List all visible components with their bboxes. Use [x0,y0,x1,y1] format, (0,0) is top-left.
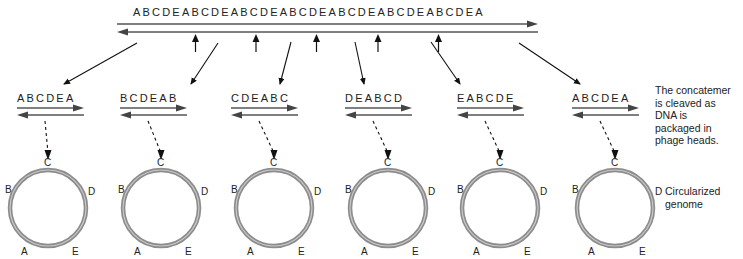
genome-locus-label: B [457,184,464,195]
genome-locus-label: A [588,246,595,257]
circular-genome-list: CBDAECBDAECBDAECBDAECBDAECBDAE [5,157,662,257]
circular-genome: CBDAE [457,157,547,257]
genome-locus-label: E [72,246,79,257]
circular-note-line: Circularized [665,185,720,198]
genome-locus-label: B [572,184,579,195]
concatemer-forward-strand [117,21,538,28]
genome-locus-label: D [428,186,435,197]
genome-locus-label: B [345,184,352,195]
dashed-arrow-icon [373,121,388,153]
fragment-sequence: DEABCD [345,92,404,104]
genome-locus-label: A [473,246,480,257]
cleavage-note-line: is cleaved as [655,97,731,110]
packaging-arrows [64,42,580,84]
concatemer-diagram: ABCDEABCDEABCDEABCDEABCDEABCDEABCDEA ABC… [0,0,743,259]
genome-locus-label: D [655,186,662,197]
circular-genome: CBDAE [345,157,435,257]
genome-locus-label: C [270,157,277,168]
fragment: CDEABC [231,92,298,160]
dashed-arrow-icon [485,121,500,153]
genome-locus-label: D [540,186,547,197]
genome-locus-label: D [201,186,208,197]
genome-locus-label: A [361,246,368,257]
cleavage-note-line: phage heads. [655,134,731,147]
genome-locus-label: D [88,186,95,197]
genome-locus-label: C [157,157,164,168]
genome-locus-label: E [524,246,531,257]
genome-locus-label: C [44,157,51,168]
genome-locus-label: E [185,246,192,257]
genome-locus-label: D [314,186,321,197]
genome-locus-label: B [118,184,125,195]
fragment: DEABCD [345,92,412,160]
genome-locus-label: A [134,246,141,257]
cleavage-note-line: The concatemer [655,84,731,97]
cleavage-site-arrows [192,34,442,52]
dashed-arrow-icon [45,121,48,153]
cleavage-note: The concatemer is cleaved as DNA is pack… [655,84,731,147]
dashed-arrow-icon [259,121,274,153]
genome-locus-label: B [5,184,12,195]
fragment-sequence: EABCDE [457,92,515,104]
cleavage-arrow-icon [375,34,382,52]
circular-note-line: genome [665,198,720,211]
fragment: ABCDEA [17,92,84,160]
fragment: BCDEAB [120,92,187,160]
concatemer: ABCDEABCDEABCDEABCDEABCDEABCDEABCDEA [117,6,538,36]
fragment-sequence: CDEABC [231,92,290,104]
cleavage-arrow-icon [192,34,199,52]
arrow-to-fragment-6 [519,43,580,84]
circular-genome: CBDAE [231,157,321,257]
arrow-to-fragment-4 [355,42,364,84]
fragment-sequence: ABCDEA [572,92,630,104]
cleavage-note-line: DNA is [655,109,731,122]
fragment-sequence: ABCDEA [17,92,75,104]
cleavage-arrow-icon [253,34,260,52]
cleavage-note-line: packaged in [655,122,731,135]
arrow-to-fragment-3 [280,42,291,84]
genome-locus-label: C [496,157,503,168]
arrow-to-fragment-1 [64,43,137,84]
arrow-to-fragment-5 [431,42,460,84]
genome-locus-label: A [21,246,28,257]
genome-locus-label: B [231,184,238,195]
circular-genome: CBDAE [5,157,95,257]
dashed-arrow-icon [148,121,161,153]
dashed-arrow-icon [600,121,615,153]
genome-locus-label: E [298,246,305,257]
concatemer-reverse-strand [117,29,538,36]
circular-genome: CBDAE [572,157,662,257]
fragment-list: ABCDEABCDEABCDEABCDEABCDEABCDEABCDEA [17,92,639,160]
genome-locus-label: E [412,246,419,257]
cleavage-arrow-icon [313,34,320,52]
genome-locus-label: A [247,246,254,257]
fragment-sequence: BCDEAB [120,92,178,104]
genome-locus-label: E [639,246,646,257]
circular-genome: CBDAE [118,157,208,257]
fragment: ABCDEA [572,92,639,160]
genome-locus-label: C [384,157,391,168]
genome-locus-label: C [611,157,618,168]
circularized-genome-note: Circularized genome [665,185,720,210]
concatemer-sequence: ABCDEABCDEABCDEABCDEABCDEABCDEABCDEA [133,6,485,18]
fragment: EABCDE [457,92,524,160]
